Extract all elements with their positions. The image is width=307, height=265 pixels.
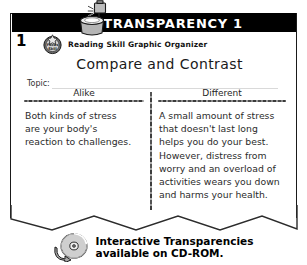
column-heading-different: Different [156,88,288,100]
footer-line-1: Interactive Transparencies [96,235,254,248]
transparency-title: TRANSPARENCY 1 [12,15,288,30]
text-line: are your body's [25,122,146,135]
svg-text:Skill: Skill [48,47,57,51]
torn-edge-decoration [10,205,298,231]
lesson-number: 1 [16,34,26,49]
footer-text: Interactive Transparencies available on … [96,235,254,260]
text-line: A small amount of stress [159,109,288,122]
transparency-page: TRANSPARENCY 1 1 Focus Skill Readi [0,0,307,265]
column-different: Different A small amount of stress that … [156,88,288,201]
text-line: and harms your health. [159,188,288,201]
footer-line-2: available on CD-ROM. [96,247,254,260]
organizer-title: Compare and Contrast [0,56,307,72]
text-line: However, distress from [159,149,288,162]
cd-rom-icon [54,232,92,262]
column-rule-different [158,100,286,102]
column-rule-alike [24,100,144,102]
reading-skill-label: Reading Skill Graphic Organizer [68,40,207,49]
column-divider [150,92,152,210]
text-line: helps you do your best. [159,135,288,148]
focus-skill-badge-icon: Focus Skill [42,34,63,55]
text-line: reaction to challenges. [25,135,146,148]
column-body-different[interactable]: A small amount of stress that doesn't la… [156,109,288,201]
footer: Interactive Transparencies available on … [0,232,307,262]
column-alike: Alike Both kinds of stress are your body… [22,88,146,149]
topic-label: Topic: [27,79,50,88]
text-line: that doesn't last long [159,122,288,135]
column-heading-alike: Alike [22,88,146,100]
column-body-alike[interactable]: Both kinds of stress are your body's rea… [22,109,146,149]
text-line: worry and an overload of [159,162,288,175]
transparency-header-bar: TRANSPARENCY 1 [12,13,296,32]
text-line: activities wears you down [159,175,288,188]
text-line: Both kinds of stress [25,109,146,122]
overhead-projector-icon [72,0,112,37]
